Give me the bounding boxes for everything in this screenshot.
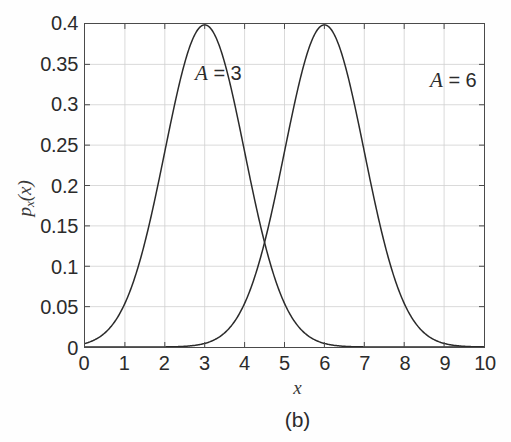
x-tick-label: 6 (319, 352, 330, 375)
curve-label-a6-var: A (430, 68, 443, 92)
plot-area: A = 3 A = 6 (84, 23, 485, 348)
y-tick-label: 0.1 (51, 255, 78, 278)
x-tick-label: 8 (399, 352, 410, 375)
curve-layer (85, 24, 484, 347)
x-tick-label: 10 (474, 352, 496, 375)
curve-a3 (85, 25, 484, 347)
y-tick-label: 0.2 (51, 174, 78, 197)
x-axis-title: x (0, 377, 511, 399)
x-tick-label: 4 (239, 352, 250, 375)
curve-label-a6: A = 6 (430, 68, 477, 93)
y-axis-title-arg: (x) (14, 180, 35, 201)
y-tick-label: 0.3 (51, 93, 78, 116)
y-axis-title-subscript: x (22, 201, 37, 207)
curve-label-a3-value: = 3 (208, 62, 242, 84)
y-axis-title-main: p (14, 207, 35, 217)
y-tick-label: 0.4 (51, 12, 78, 35)
y-tick-label: 0.25 (40, 133, 78, 156)
x-tick-label: 7 (359, 352, 370, 375)
y-tick-label: 0.05 (40, 296, 78, 319)
x-tick-label: 5 (279, 352, 290, 375)
curve-label-a3-var: A (195, 61, 208, 85)
curve-label-a3: A = 3 (195, 61, 242, 86)
x-tick-label: 3 (199, 352, 210, 375)
curve-label-a6-value: = 6 (443, 69, 477, 91)
y-tick-label: 0.15 (40, 215, 78, 238)
x-tick-label: 9 (439, 352, 450, 375)
y-tick-label: 0.35 (40, 52, 78, 75)
figure-caption: (b) (0, 408, 511, 432)
x-tick-label: 1 (119, 352, 130, 375)
x-tick-label: 0 (79, 352, 90, 375)
x-tick-label: 2 (159, 352, 170, 375)
y-axis-title: px(x) (14, 168, 39, 228)
figure-panel: A = 3 A = 6 00.050.10.150.20.250.30.350.… (0, 0, 511, 442)
x-axis-tick-labels: 012345678910 (0, 352, 511, 380)
curve-a6 (85, 25, 484, 347)
